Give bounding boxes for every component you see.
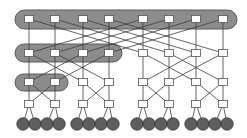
host-node-icon	[41, 118, 53, 130]
switch-icon	[165, 50, 174, 57]
host-node-icon	[17, 118, 29, 130]
switch-icon	[219, 16, 228, 23]
host-node-icon	[221, 118, 233, 130]
host-node-icon	[197, 118, 209, 130]
switch-icon	[139, 50, 148, 57]
switch-icon	[192, 101, 201, 108]
host-node-icon	[83, 118, 95, 130]
switch-icon	[105, 16, 114, 23]
top-level-group	[15, 10, 237, 29]
host-node-icon	[131, 118, 143, 130]
host-node-icon	[167, 118, 179, 130]
switch-icon	[105, 79, 114, 86]
switch-icon	[51, 101, 60, 108]
third-level-group	[15, 74, 68, 91]
switch-icon	[79, 16, 88, 23]
switch-icon	[105, 101, 114, 108]
host-node-icon	[155, 118, 167, 130]
host-node-icon	[53, 118, 65, 130]
links	[23, 19, 227, 124]
switch-icon	[25, 101, 34, 108]
switch-icon	[192, 79, 201, 86]
switch-icon	[25, 16, 34, 23]
switch-icon	[51, 50, 60, 57]
switch-icon	[25, 50, 34, 57]
switch-icon	[165, 101, 174, 108]
host-node-icon	[143, 118, 155, 130]
switch-icon	[219, 79, 228, 86]
switch-icon	[105, 50, 114, 57]
fat-tree-diagram	[0, 0, 247, 138]
switch-icon	[79, 101, 88, 108]
switch-icon	[165, 16, 174, 23]
hosts	[17, 118, 233, 130]
switch-icon	[51, 16, 60, 23]
switch-icon	[79, 50, 88, 57]
switch-icon	[192, 50, 201, 57]
host-node-icon	[209, 118, 221, 130]
host-node-icon	[95, 118, 107, 130]
switch-icon	[25, 79, 34, 86]
network-topology-svg	[0, 0, 247, 138]
switch-icon	[139, 79, 148, 86]
switch-icon	[139, 16, 148, 23]
switch-icon	[79, 79, 88, 86]
switch-icon	[139, 101, 148, 108]
host-node-icon	[71, 118, 83, 130]
host-node-icon	[107, 118, 119, 130]
switch-icon	[192, 16, 201, 23]
switch-groups	[15, 10, 237, 91]
host-node-icon	[185, 118, 197, 130]
switch-icon	[165, 79, 174, 86]
switch-icon	[219, 50, 228, 57]
switch-icon	[51, 79, 60, 86]
host-node-icon	[29, 118, 41, 130]
switch-icon	[219, 101, 228, 108]
